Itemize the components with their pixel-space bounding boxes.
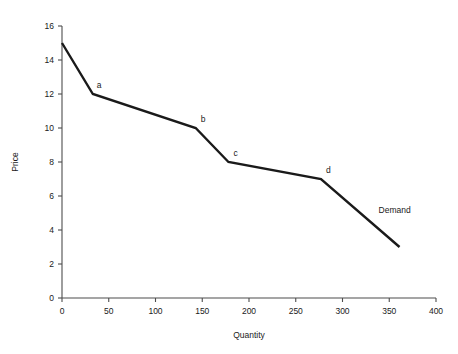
x-tick-label: 350 — [382, 306, 396, 316]
point-label-c: c — [233, 148, 238, 158]
x-tick-label: 200 — [242, 306, 256, 316]
y-tick-label: 16 — [45, 21, 55, 31]
x-tick-label: 150 — [195, 306, 209, 316]
y-tick-label: 8 — [49, 157, 54, 167]
y-tick-label: 12 — [45, 89, 55, 99]
chart-canvas: 0246810121416 050100150200250300350400 a… — [0, 0, 458, 354]
x-tick-label: 250 — [289, 306, 303, 316]
y-tick-label: 10 — [45, 123, 55, 133]
y-tick-label: 14 — [45, 55, 55, 65]
x-tick-label: 50 — [104, 306, 114, 316]
y-tick-label: 0 — [49, 293, 54, 303]
y-axis-title: Price — [10, 152, 20, 172]
demand-curve-chart: 0246810121416 050100150200250300350400 a… — [0, 0, 458, 354]
point-label-a: a — [97, 80, 102, 90]
point-label-b: b — [201, 114, 206, 124]
x-tick-label: 100 — [148, 306, 162, 316]
x-tick-label: 400 — [429, 306, 443, 316]
y-tick-label: 2 — [49, 259, 54, 269]
y-tick-label: 6 — [49, 191, 54, 201]
x-axis-title: Quantity — [233, 330, 265, 340]
series-label-demand: Demand — [379, 205, 411, 215]
x-tick-label: 300 — [335, 306, 349, 316]
y-tick-label: 4 — [49, 225, 54, 235]
point-label-d: d — [326, 165, 331, 175]
x-tick-label: 0 — [60, 306, 65, 316]
